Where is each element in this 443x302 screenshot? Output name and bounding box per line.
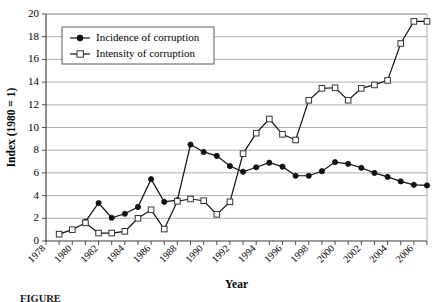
data-point-marker	[227, 199, 233, 205]
data-point-marker	[240, 151, 246, 157]
figure-caption: FIGURE	[20, 293, 61, 302]
x-tick-label: 1980	[52, 243, 74, 265]
data-point-marker	[201, 149, 206, 154]
data-point-marker	[306, 173, 311, 178]
data-point-marker	[240, 169, 245, 174]
x-tick-label: 1978	[25, 243, 47, 265]
legend-label: Incidence of corruption	[96, 31, 200, 43]
data-point-marker	[332, 85, 338, 91]
x-tick-label: 1996	[262, 243, 284, 265]
data-point-marker	[411, 19, 417, 25]
data-point-marker	[188, 196, 194, 202]
legend-marker	[77, 51, 83, 57]
y-tick-label: 12	[28, 98, 39, 110]
data-point-marker	[162, 199, 167, 204]
data-point-marker	[385, 78, 391, 84]
data-point-marker	[227, 163, 232, 168]
data-point-marker	[267, 116, 273, 122]
data-point-marker	[96, 230, 102, 236]
y-tick-label: 18	[28, 30, 40, 42]
y-tick-label: 4	[34, 189, 40, 201]
x-tick-label: 1986	[131, 243, 153, 265]
y-tick-label: 16	[28, 52, 40, 64]
y-axis-title: Index (1980 = 1)	[5, 87, 18, 167]
x-tick-label: 1984	[104, 243, 126, 265]
data-point-marker	[122, 211, 127, 216]
data-point-marker	[280, 132, 286, 138]
data-point-marker	[267, 160, 272, 165]
data-point-marker	[214, 153, 219, 158]
data-point-marker	[398, 179, 403, 184]
x-tick-label: 1982	[78, 243, 100, 265]
x-tick-label: 1992	[209, 243, 231, 265]
y-tick-label: 2	[34, 211, 40, 223]
y-tick-label: 20	[28, 7, 40, 19]
y-tick-label: 6	[34, 166, 40, 178]
figure-container: 02468101214161820 1978198019821984198619…	[0, 0, 443, 302]
y-axis-ticks: 02468101214161820	[28, 7, 46, 246]
x-tick-label: 2004	[367, 243, 389, 265]
x-tick-label: 1998	[288, 243, 310, 265]
y-tick-label: 8	[34, 143, 40, 155]
data-point-marker	[214, 212, 220, 218]
x-axis-title: Year	[225, 278, 248, 290]
legend-marker	[77, 35, 83, 41]
data-point-marker	[306, 97, 312, 103]
corruption-index-line-chart: 02468101214161820 1978198019821984198619…	[0, 0, 443, 302]
legend-label: Intensity of corruption	[96, 47, 195, 59]
data-point-marker	[56, 231, 62, 237]
data-point-marker	[149, 177, 154, 182]
data-point-marker	[385, 174, 390, 179]
data-point-marker	[372, 82, 378, 88]
data-point-marker	[280, 164, 285, 169]
data-point-marker	[424, 19, 430, 25]
data-point-marker	[319, 86, 325, 92]
data-point-marker	[188, 142, 193, 147]
data-point-marker	[135, 216, 141, 222]
x-tick-label: 1990	[183, 243, 205, 265]
data-point-marker	[254, 165, 259, 170]
data-point-marker	[372, 170, 377, 175]
x-tick-label: 2006	[393, 243, 415, 265]
x-tick-label: 1994	[236, 243, 258, 265]
data-point-marker	[411, 182, 416, 187]
data-point-marker	[161, 226, 167, 232]
data-point-marker	[109, 215, 114, 220]
x-tick-label: 2000	[315, 243, 337, 265]
data-point-marker	[424, 183, 429, 188]
data-point-marker	[175, 198, 181, 204]
data-point-marker	[332, 160, 337, 165]
data-point-marker	[201, 198, 207, 204]
data-point-marker	[148, 207, 154, 213]
data-point-marker	[96, 200, 101, 205]
data-point-marker	[345, 97, 351, 103]
x-tick-label: 1988	[157, 243, 179, 265]
data-point-marker	[359, 86, 365, 92]
data-point-marker	[359, 165, 364, 170]
y-tick-label: 14	[28, 75, 40, 87]
data-point-marker	[109, 230, 115, 236]
data-point-marker	[122, 229, 128, 235]
y-tick-label: 10	[28, 121, 40, 133]
data-point-marker	[293, 137, 299, 143]
chart-legend: Incidence of corruptionIntensity of corr…	[62, 27, 214, 64]
data-point-marker	[69, 227, 75, 233]
data-point-marker	[398, 41, 404, 47]
x-tick-label: 2002	[341, 243, 363, 265]
x-axis-ticks: 1978198019821984198619881990199219941996…	[25, 241, 427, 265]
data-point-marker	[83, 220, 89, 226]
data-point-marker	[346, 161, 351, 166]
data-point-marker	[253, 130, 259, 136]
series-line-1	[85, 145, 427, 222]
data-point-marker	[135, 204, 140, 209]
data-point-marker	[319, 169, 324, 174]
data-point-marker	[293, 173, 298, 178]
